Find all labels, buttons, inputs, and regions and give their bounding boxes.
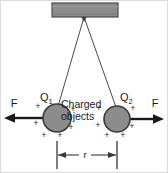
charge-sphere-q2	[104, 106, 130, 132]
plus-sign: +	[68, 122, 73, 132]
support-bar	[52, 3, 118, 17]
label-force-right: F	[152, 97, 159, 109]
plus-sign: +	[33, 118, 38, 128]
plus-sign: +	[104, 130, 109, 140]
plus-sign: +	[57, 130, 62, 140]
plus-sign: +	[129, 121, 134, 131]
charged-objects-line1: Charged	[61, 98, 101, 110]
plus-sign: +	[120, 130, 125, 140]
physics-diagram-charged-objects: + + + + + + + + + + + + Q 1 Q 2 F F	[0, 0, 168, 173]
charged-objects-line2: objects	[61, 110, 94, 122]
label-force-left: F	[11, 97, 18, 109]
plus-sign: +	[95, 120, 100, 130]
label-q2-subscript: 2	[129, 97, 133, 106]
figure-background	[0, 0, 168, 173]
label-q1-subscript: 1	[49, 97, 53, 106]
plus-sign: +	[41, 130, 46, 140]
dimension-label-r: r	[83, 149, 86, 160]
